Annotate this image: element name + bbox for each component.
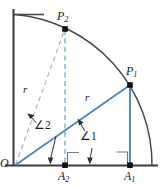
label-a2: A2	[58, 170, 69, 184]
geometry-figure: P2 P1 A2 A1 r r ∠2 ∠1 O	[0, 0, 160, 189]
label-p1: P1	[126, 65, 137, 79]
angle-1-foot-leader	[90, 148, 92, 159]
label-a1: A1	[124, 170, 135, 184]
label-angle-2: ∠2	[34, 120, 51, 132]
point-p1-dot	[127, 82, 133, 88]
point-a1-dot	[127, 162, 133, 168]
radius-segment-2	[16, 30, 65, 165]
angle-1-foot-arrowhead	[87, 157, 93, 164]
label-p2: P2	[57, 10, 68, 24]
angle-2-foot-arrowhead	[48, 157, 54, 164]
label-radius-1: r	[85, 92, 89, 103]
right-angle-marker-2	[68, 153, 80, 165]
right-angle-marker-1	[117, 152, 128, 165]
point-p2-dot	[62, 26, 68, 32]
point-a2-dot	[62, 162, 68, 168]
label-angle-1: ∠1	[80, 131, 97, 143]
label-origin: O	[0, 157, 9, 169]
label-radius-2: r	[23, 84, 27, 95]
circle-arc	[15, 15, 152, 166]
